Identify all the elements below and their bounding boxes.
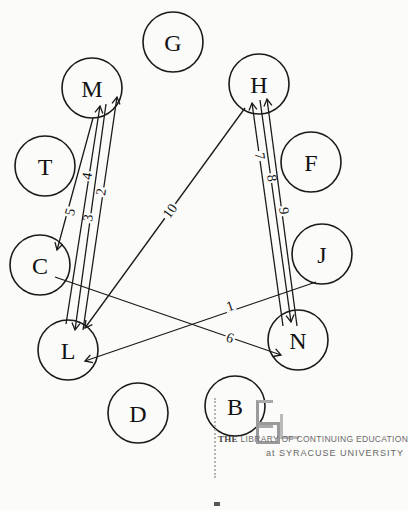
node-label: J — [317, 242, 326, 268]
node-label: D — [129, 401, 146, 427]
node-j: J — [292, 224, 352, 284]
node-label: G — [164, 30, 181, 56]
arrow-line — [55, 277, 281, 355]
nodes-layer: GMHTFCJLNDB — [10, 12, 352, 443]
node-m: M — [62, 58, 122, 118]
edges-layer: 12345678910 — [55, 97, 316, 361]
edge-m-to-l: 3 — [75, 104, 106, 330]
stamp-text-line1: THE LIBRARY OF CONTINUING EDUCATION — [218, 434, 408, 444]
node-c: C — [10, 235, 70, 295]
stamp-mark — [214, 502, 220, 506]
node-label: C — [32, 253, 48, 279]
node-l: L — [38, 320, 98, 380]
node-label: M — [81, 76, 102, 102]
edge-j-to-l: 1 — [85, 282, 316, 361]
node-label: T — [38, 154, 53, 180]
node-label: N — [289, 328, 306, 354]
arrow-line — [85, 282, 316, 361]
node-label: L — [61, 338, 76, 364]
edge-c-to-n: 6 — [55, 277, 281, 355]
node-g: G — [143, 12, 203, 72]
stamp-text-library: LIBRARY OF CONTINUING EDUCATION — [241, 434, 408, 444]
node-label: F — [304, 150, 317, 176]
edge-h-to-l: 10 — [85, 108, 245, 328]
stamp-text-bold: THE — [218, 434, 238, 444]
node-t: T — [15, 136, 75, 196]
node-d: D — [108, 383, 168, 443]
node-h: H — [229, 54, 289, 114]
edge-order-label: 10 — [160, 201, 180, 221]
stamp-text-line2: at SYRACUSE UNIVERSITY — [266, 448, 404, 458]
node-n: N — [268, 310, 328, 370]
edge-n-to-h: 9 — [267, 99, 297, 326]
node-label: H — [250, 72, 267, 98]
library-stamp: THE LIBRARY OF CONTINUING EDUCATION at S… — [214, 398, 407, 508]
node-f: F — [281, 132, 341, 192]
